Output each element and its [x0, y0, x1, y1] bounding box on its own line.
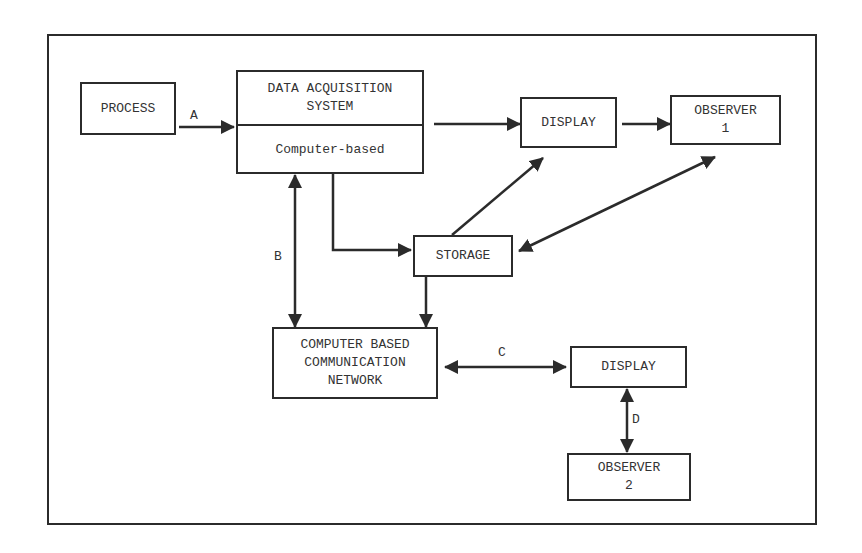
observer-2-label: OBSERVER 2 [598, 459, 660, 495]
edge-label-b: B [274, 249, 282, 264]
display-1-node: DISPLAY [520, 97, 617, 148]
data-acquisition-system-node: DATA ACQUISITION SYSTEM Computer-based [236, 70, 424, 174]
observer-2-node: OBSERVER 2 [567, 453, 691, 501]
observer-1-label: OBSERVER 1 [694, 102, 756, 138]
display-1-label: DISPLAY [541, 114, 596, 132]
storage-label: STORAGE [436, 247, 491, 265]
process-label: PROCESS [101, 100, 156, 118]
das-title: DATA ACQUISITION SYSTEM [238, 72, 422, 126]
network-label: COMPUTER BASED COMMUNICATION NETWORK [300, 336, 409, 390]
process-node: PROCESS [80, 82, 176, 135]
observer-1-node: OBSERVER 1 [670, 95, 781, 145]
display-2-label: DISPLAY [601, 358, 656, 376]
storage-node: STORAGE [413, 235, 513, 277]
das-subtitle: Computer-based [238, 126, 422, 174]
edge-label-c: C [498, 345, 506, 360]
communication-network-node: COMPUTER BASED COMMUNICATION NETWORK [272, 327, 438, 399]
edge-label-a: A [190, 108, 198, 123]
display-2-node: DISPLAY [570, 346, 687, 388]
edge-label-d: D [632, 412, 640, 427]
